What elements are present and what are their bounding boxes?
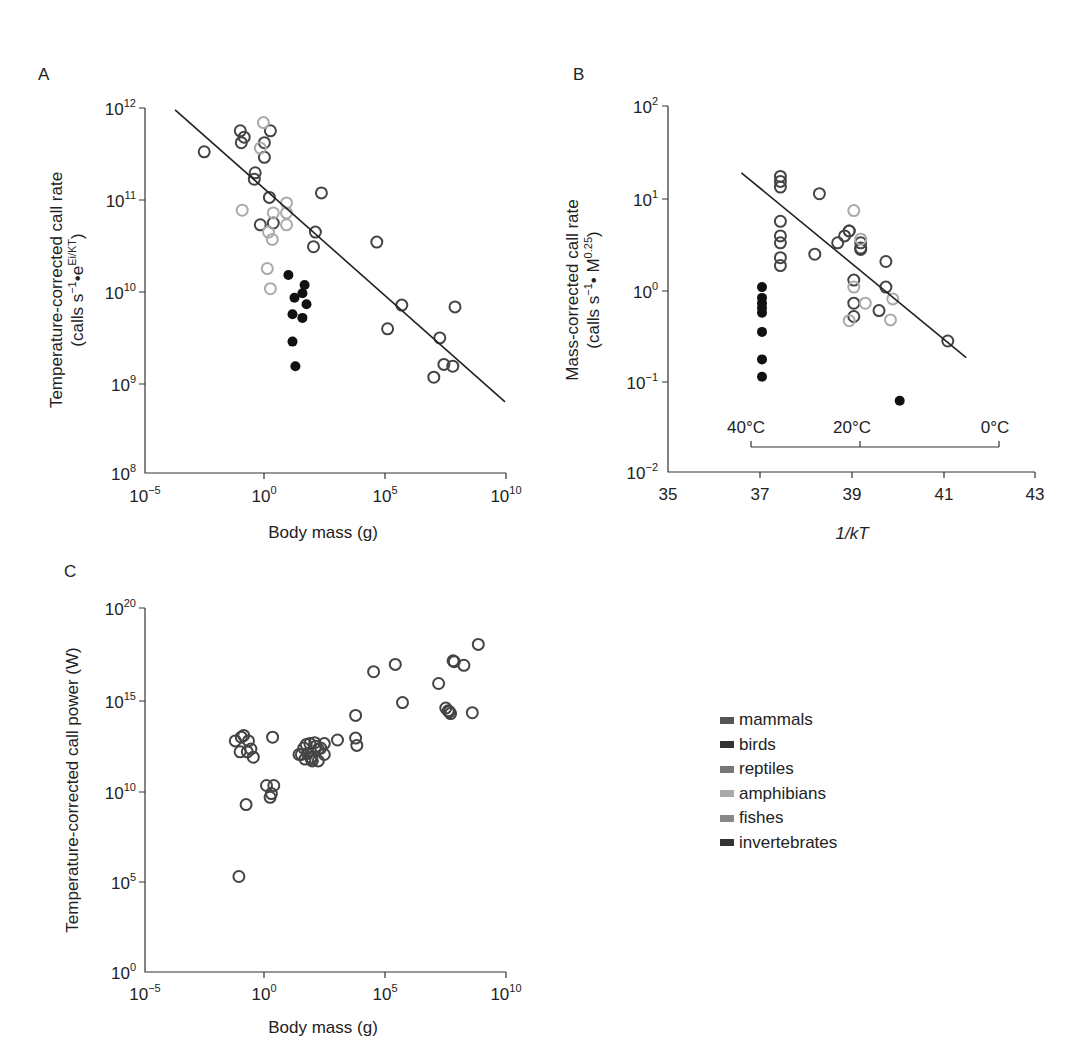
- panel-b-x-ticks: 35 37 39 41 43: [659, 485, 1045, 504]
- panel-b-y-ticks: 102 101 100 10−1 10−2: [627, 95, 658, 483]
- panel-b-temperature-scale: 40°C 20°C 0°C: [727, 418, 1009, 447]
- data-point: [310, 227, 321, 238]
- data-point: [262, 263, 273, 274]
- data-point: [390, 659, 401, 670]
- svg-text:109: 109: [111, 373, 136, 395]
- data-point: [428, 372, 439, 383]
- data-point: [757, 308, 767, 318]
- data-point: [288, 337, 298, 347]
- svg-text:1020: 1020: [105, 597, 136, 619]
- svg-text:35: 35: [659, 485, 678, 504]
- svg-text:41: 41: [935, 485, 954, 504]
- data-point: [848, 282, 859, 293]
- data-point: [237, 205, 248, 216]
- panel-c-axes: [139, 608, 506, 978]
- legend-swatch-icon: [720, 790, 734, 797]
- data-point: [467, 707, 478, 718]
- data-point: [308, 241, 319, 252]
- svg-text:1011: 1011: [106, 189, 136, 211]
- data-point: [267, 732, 278, 743]
- data-point: [848, 205, 859, 216]
- panel-a-y-axis-title: Temperature-corrected call rate (calls s…: [47, 172, 87, 408]
- data-point: [350, 710, 361, 721]
- data-point: [265, 283, 276, 294]
- panel-b-chart: 102 101 100 10−1 10−2 35 37 39 41 43 1/k…: [563, 95, 1044, 543]
- legend-label: reptiles: [739, 759, 794, 779]
- legend-label: fishes: [739, 808, 783, 828]
- panel-c-y-ticks: 1020 1015 1010 105 100: [105, 597, 136, 983]
- svg-text:10−5: 10−5: [129, 982, 160, 1004]
- data-point: [316, 187, 327, 198]
- data-point: [809, 249, 820, 260]
- temp-label-20c: 20°C: [833, 418, 871, 437]
- data-point: [757, 354, 767, 364]
- panel-label-b: B: [573, 65, 584, 84]
- legend-swatch-icon: [720, 766, 734, 773]
- data-point: [775, 260, 786, 271]
- legend-swatch-icon: [720, 741, 734, 748]
- data-point: [757, 282, 767, 292]
- panel-a-fit-line: [175, 110, 505, 402]
- data-point: [332, 735, 343, 746]
- svg-text:Mass-corrected call rate: Mass-corrected call rate: [563, 199, 582, 380]
- svg-text:1010: 1010: [105, 781, 136, 803]
- legend-label: birds: [739, 735, 776, 755]
- data-point: [290, 361, 300, 371]
- svg-text:1010: 1010: [490, 484, 521, 506]
- panel-a-y-ticks: 1012 1011 1010 109 108: [105, 97, 136, 484]
- panel-b-points: [757, 171, 953, 406]
- panel-c-x-axis-title: Body mass (g): [268, 1018, 378, 1037]
- panel-a-x-axis-title: Body mass (g): [268, 523, 378, 542]
- data-point: [233, 871, 244, 882]
- legend-item-invertebrates: invertebrates: [720, 831, 837, 856]
- svg-text:(calls s−1•eEi/KT): (calls s−1•eEi/KT): [66, 233, 87, 346]
- legend-item-mammals: mammals: [720, 708, 837, 733]
- svg-text:39: 39: [843, 485, 862, 504]
- data-point: [281, 219, 292, 230]
- svg-text:37: 37: [751, 485, 770, 504]
- data-point: [450, 301, 461, 312]
- svg-text:43: 43: [1026, 485, 1045, 504]
- svg-text:1015: 1015: [105, 690, 136, 712]
- panel-b-y-axis-title: Mass-corrected call rate (calls s−1• M0.…: [563, 199, 603, 380]
- data-point: [458, 660, 469, 671]
- legend: mammals birds reptiles amphibians fishes…: [720, 708, 837, 855]
- svg-text:100: 100: [251, 982, 276, 1004]
- data-point: [775, 216, 786, 227]
- svg-text:102: 102: [633, 95, 658, 117]
- data-point: [757, 327, 767, 337]
- data-point: [368, 666, 379, 677]
- data-point: [895, 396, 905, 406]
- svg-text:(calls s−1• M0.25): (calls s−1• M0.25): [582, 231, 603, 348]
- svg-text:105: 105: [111, 871, 136, 893]
- svg-text:101: 101: [633, 188, 658, 210]
- data-point: [880, 256, 891, 267]
- legend-label: amphibians: [739, 784, 826, 804]
- svg-text:108: 108: [111, 462, 136, 484]
- data-point: [757, 372, 767, 382]
- data-point: [382, 323, 393, 334]
- panel-c-y-axis-title: Temperature-corrected call power (W): [63, 647, 82, 932]
- svg-text:100: 100: [111, 961, 136, 983]
- legend-label: mammals: [739, 710, 813, 730]
- data-point: [199, 146, 210, 157]
- panel-c-x-ticks: 10−5 100 105 1010: [129, 982, 521, 1004]
- panel-label-c: C: [64, 562, 76, 581]
- data-point: [860, 298, 871, 309]
- data-point: [832, 237, 843, 248]
- svg-text:105: 105: [372, 484, 397, 506]
- data-point: [396, 300, 407, 311]
- svg-text:10−2: 10−2: [627, 461, 658, 483]
- data-point: [885, 314, 896, 325]
- svg-text:Temperature-corrected call rat: Temperature-corrected call rate: [47, 172, 66, 408]
- data-point: [433, 678, 444, 689]
- panel-a-chart: 1012 1011 1010 109 108 10−5 100 105 1010…: [47, 97, 522, 542]
- data-point: [297, 288, 307, 298]
- svg-text:10−5: 10−5: [129, 484, 160, 506]
- data-point: [848, 298, 859, 309]
- panel-b-x-axis-title: 1/kT: [835, 524, 870, 543]
- panel-label-a: A: [38, 65, 50, 84]
- svg-text:100: 100: [251, 484, 276, 506]
- data-point: [775, 237, 786, 248]
- svg-text:105: 105: [372, 982, 397, 1004]
